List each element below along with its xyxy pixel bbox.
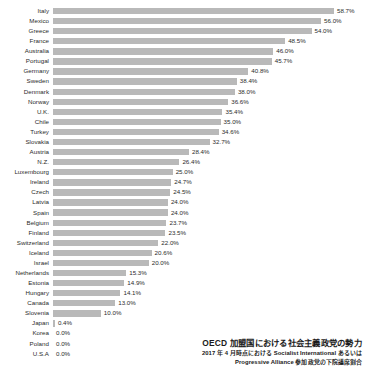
value-label: 35.0% [221,119,242,125]
chart-row: Australia46.0% [0,46,368,56]
category-label: France [0,38,53,44]
chart-row: Germany40.8% [0,66,368,76]
chart-row: U.K.35.4% [0,107,368,117]
chart-row: Mexico56.0% [0,16,368,26]
category-label: Hungary [0,290,53,296]
bar-track: 14.1% [53,288,368,298]
chart-row: Israel20.0% [0,258,368,268]
category-label: Poland [0,341,53,347]
category-label: Austria [0,149,53,155]
value-label: 25.0% [173,169,194,175]
value-label: 24.0% [168,199,189,205]
chart-row: Luxembourg25.0% [0,167,368,177]
bar-track: 20.0% [53,258,368,268]
category-label: Italy [0,8,53,14]
bar-track: 56.0% [53,16,368,26]
bar-track: 54.0% [53,26,368,36]
chart-row: Chile35.0% [0,117,368,127]
chart-row: Sweden38.4% [0,77,368,87]
chart-row: Slovenia10.0% [0,308,368,318]
bar-track: 36.6% [53,97,368,107]
value-label: 0.4% [55,320,72,326]
value-label: 34.6% [219,129,240,135]
bar-track: 13.0% [53,298,368,308]
bar [53,58,272,64]
category-label: Greece [0,28,53,34]
value-label: 40.8% [248,68,269,74]
category-label: Spain [0,210,53,216]
bar-track: 58.7% [53,6,368,16]
bar-track: 24.7% [53,177,368,187]
bar [53,240,158,246]
chart-row: Norway36.6% [0,97,368,107]
bar [53,8,334,14]
bar-track: 38.0% [53,87,368,97]
bar-track: 24.0% [53,197,368,207]
chart-row: Slovakia32.7% [0,137,368,147]
bar [53,179,171,185]
bar [53,300,115,306]
chart-row: Netherlands15.3% [0,268,368,278]
bar [53,280,124,286]
bar [53,149,189,155]
bar [53,119,221,125]
category-label: Slovakia [0,139,53,145]
value-label: 56.0% [321,18,342,24]
bar [53,290,120,296]
bar-track: 24.5% [53,187,368,197]
chart-row: Finland23.5% [0,228,368,238]
category-label: Luxembourg [0,169,53,175]
category-label: Belgium [0,220,53,226]
bar [53,109,222,115]
value-label: 14.1% [120,290,141,296]
bar-track: 10.0% [53,308,368,318]
category-label: Japan [0,320,53,326]
bar [53,159,179,165]
bar-track: 34.6% [53,127,368,137]
value-label: 58.7% [334,8,355,14]
value-label: 38.4% [237,78,258,84]
chart-row: Denmark38.0% [0,87,368,97]
category-label: Denmark [0,89,53,95]
chart-row: Ireland24.7% [0,177,368,187]
value-label: 24.0% [168,210,189,216]
category-label: Czech [0,189,53,195]
category-label: Chile [0,119,53,125]
bar [53,230,165,236]
chart-row: Iceland20.6% [0,248,368,258]
category-label: Ireland [0,179,53,185]
bar-track: 28.4% [53,147,368,157]
bar-track: 23.5% [53,228,368,238]
category-label: Iceland [0,250,53,256]
bar-track: 32.7% [53,137,368,147]
category-label: Norway [0,99,53,105]
category-label: Turkey [0,129,53,135]
value-label: 38.0% [235,89,256,95]
category-label: Estonia [0,280,53,286]
category-label: Netherlands [0,270,53,276]
value-label: 22.0% [158,240,179,246]
bar-track: 38.4% [53,77,368,87]
bar [53,139,210,145]
category-label: Israel [0,260,53,266]
bar [53,209,168,215]
bar [53,48,273,54]
bar [53,89,235,95]
caption-title: OECD 加盟国における社会主義政党の勢力 [202,337,362,349]
bar-track: 0.4% [53,318,368,328]
value-label: 46.0% [273,48,294,54]
bar [53,99,228,105]
value-label: 45.7% [272,58,293,64]
value-label: 0.0% [53,341,70,347]
value-label: 20.6% [152,250,173,256]
bar-track: 20.6% [53,248,368,258]
chart-row: Portugal45.7% [0,56,368,66]
chart-row: Canada13.0% [0,298,368,308]
category-label: Korea [0,330,53,336]
chart-row: Spain24.0% [0,208,368,218]
chart-row: Italy58.7% [0,6,368,16]
bar [53,68,248,74]
category-label: Germany [0,68,53,74]
caption-subtitle-line-2: Progressive Alliance 参加政党の下院議席割合 [202,358,362,367]
chart-row: Austria28.4% [0,147,368,157]
